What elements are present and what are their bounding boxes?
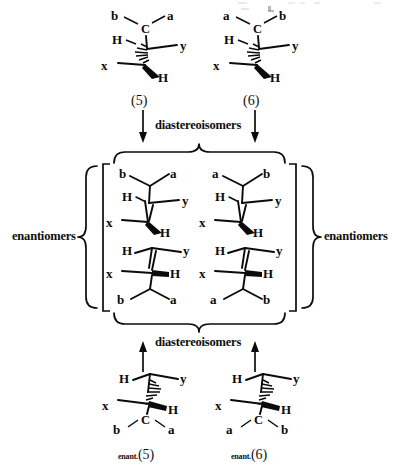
caption-number: (6) — [251, 447, 267, 462]
structure-enant-6: H y x H C a b — [0, 0, 393, 467]
atom-label-x: x — [215, 398, 222, 413]
caption-structure-enant-6: enant.(6) — [231, 448, 267, 462]
atom-label-h-upper: H — [232, 371, 242, 386]
atom-label-a: a — [226, 422, 233, 437]
figure-canvas: b C a H y x H (5) a C b — [0, 0, 393, 467]
hashed-bonds — [258, 380, 274, 404]
atom-label-b: b — [281, 422, 288, 437]
caption-prefix: enant. — [231, 452, 251, 461]
atom-label-c: C — [254, 413, 263, 427]
atom-label-h-right: H — [281, 402, 291, 417]
atom-label-y: y — [293, 371, 300, 386]
